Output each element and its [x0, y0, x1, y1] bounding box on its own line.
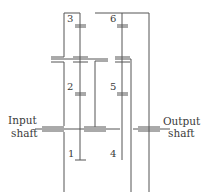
gear-label-1: 1: [68, 148, 74, 159]
output-shaft-label-line1: Output: [163, 115, 201, 127]
output-shaft-label-line2: shaft: [168, 127, 195, 139]
gear-label-3: 3: [67, 13, 73, 24]
left-carrier-frame: [64, 13, 80, 192]
output-shaft: [133, 127, 170, 131]
input-shaft-label-line1: Input: [8, 114, 37, 126]
input-shaft-label-line2: shaft: [11, 127, 38, 139]
input-shaft: [35, 127, 120, 131]
gear-label-4: 4: [110, 148, 116, 159]
gear-label-2: 2: [67, 81, 73, 92]
gear-label-6: 6: [110, 13, 116, 24]
inner-bracket: [95, 61, 108, 127]
right-coupling-sleeve: [115, 57, 131, 192]
transmission-diagram: 3 6 2 5 1 4 Input shaft Output shaft: [0, 0, 204, 192]
gear-label-5: 5: [110, 81, 116, 92]
